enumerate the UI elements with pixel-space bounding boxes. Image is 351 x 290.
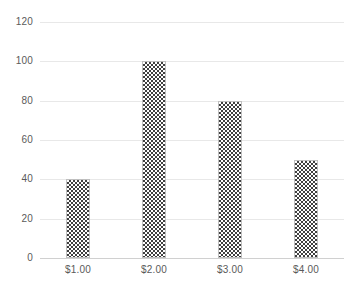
- x-axis-tick-label: $4.00: [268, 264, 344, 275]
- y-axis-tick-label: 120: [0, 17, 33, 27]
- bar-chart: 0 20 40 60 80 100 120 $1.00 $2.00 $3.0: [0, 0, 351, 290]
- y-axis-tick-label: 60: [0, 135, 33, 145]
- bar[interactable]: [294, 160, 318, 258]
- y-axis-tick-label: 0: [0, 253, 33, 263]
- bar[interactable]: [66, 179, 90, 258]
- plot-area: [40, 22, 344, 258]
- x-axis-tick-label: $2.00: [116, 264, 192, 275]
- bar[interactable]: [218, 101, 242, 258]
- x-axis-tick-label: $1.00: [40, 264, 116, 275]
- y-axis-tick-label: 100: [0, 56, 33, 66]
- gridline-baseline-0: [40, 258, 344, 259]
- bar-slot: [192, 22, 268, 258]
- bar-slot: [40, 22, 116, 258]
- x-axis-tick-label: $3.00: [192, 264, 268, 275]
- bar-slot: [116, 22, 192, 258]
- bar-slot: [268, 22, 344, 258]
- y-axis-tick-label: 80: [0, 96, 33, 106]
- bar[interactable]: [142, 61, 166, 258]
- y-axis-tick-label: 20: [0, 214, 33, 224]
- y-axis: 0 20 40 60 80 100 120: [0, 22, 33, 258]
- x-axis: $1.00 $2.00 $3.00 $4.00: [40, 264, 344, 280]
- y-axis-tick-label: 40: [0, 174, 33, 184]
